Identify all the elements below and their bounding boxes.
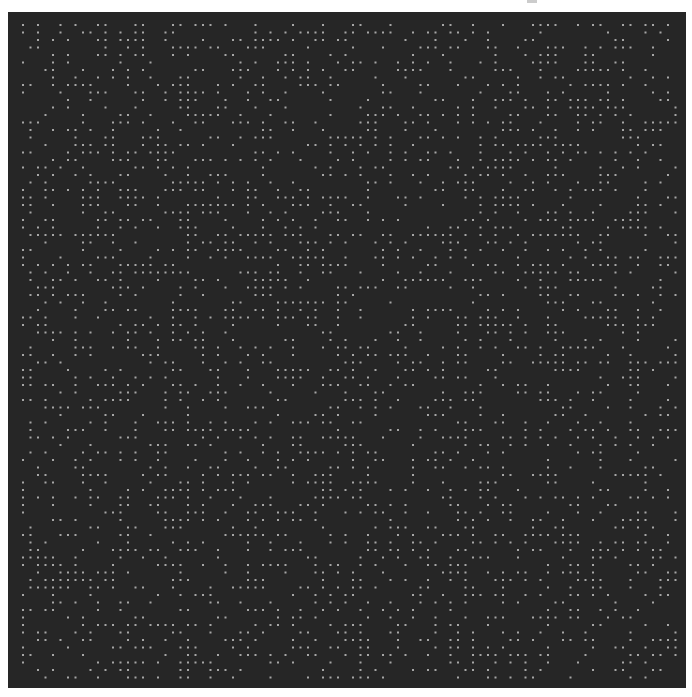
dot — [630, 564, 632, 566]
dot — [517, 572, 519, 574]
dot — [637, 377, 639, 379]
dot — [367, 677, 369, 679]
dot — [60, 579, 62, 581]
dot — [300, 77, 302, 79]
dot — [22, 189, 24, 191]
dot — [90, 242, 92, 244]
dot — [645, 474, 647, 476]
dot — [600, 84, 602, 86]
dot — [435, 39, 437, 41]
dot — [397, 219, 399, 221]
dot — [30, 204, 32, 206]
dot — [82, 152, 84, 154]
dot — [217, 114, 219, 116]
dot — [607, 84, 609, 86]
dot — [510, 339, 512, 341]
dot — [427, 369, 429, 371]
dot — [465, 362, 467, 364]
dot — [577, 542, 579, 544]
dot — [195, 594, 197, 596]
dot — [645, 647, 647, 649]
dot — [622, 24, 624, 26]
dot — [330, 212, 332, 214]
dot — [450, 624, 452, 626]
dot — [180, 309, 182, 311]
dot — [442, 572, 444, 574]
dot — [142, 197, 144, 199]
dot — [405, 384, 407, 386]
dot — [487, 47, 489, 49]
dot — [435, 467, 437, 469]
dot — [397, 257, 399, 259]
dot — [367, 534, 369, 536]
dot — [367, 482, 369, 484]
dot — [532, 527, 534, 529]
dot — [405, 489, 407, 491]
dot — [517, 279, 519, 281]
dot — [382, 32, 384, 34]
dot — [270, 114, 272, 116]
dot — [202, 279, 204, 281]
dot — [247, 647, 249, 649]
dot — [150, 62, 152, 64]
dot — [637, 159, 639, 161]
dot — [22, 662, 24, 664]
dot — [202, 144, 204, 146]
dot — [570, 504, 572, 506]
dot — [645, 234, 647, 236]
dot — [225, 174, 227, 176]
dot — [570, 272, 572, 274]
dot — [135, 107, 137, 109]
dot — [225, 54, 227, 56]
dot — [97, 572, 99, 574]
dot — [360, 122, 362, 124]
dot — [457, 84, 459, 86]
dot — [247, 519, 249, 521]
dot — [345, 32, 347, 34]
dot — [345, 69, 347, 71]
dot — [630, 227, 632, 229]
dot — [600, 489, 602, 491]
dot — [337, 632, 339, 634]
dot — [217, 47, 219, 49]
dot — [67, 677, 69, 679]
dot — [600, 317, 602, 319]
dot — [202, 182, 204, 184]
dot — [232, 182, 234, 184]
dot — [285, 197, 287, 199]
dot — [52, 594, 54, 596]
dot — [120, 504, 122, 506]
dot — [630, 422, 632, 424]
dot — [547, 459, 549, 461]
dot — [637, 137, 639, 139]
dot — [75, 332, 77, 334]
dot — [60, 24, 62, 26]
dot — [60, 279, 62, 281]
dot — [112, 144, 114, 146]
dot — [562, 407, 564, 409]
dot — [577, 69, 579, 71]
dot — [660, 407, 662, 409]
dot — [30, 279, 32, 281]
dot — [90, 144, 92, 146]
dot — [67, 407, 69, 409]
dot — [135, 242, 137, 244]
dot — [600, 557, 602, 559]
dot — [105, 279, 107, 281]
dot — [142, 264, 144, 266]
dot — [337, 234, 339, 236]
dot — [450, 639, 452, 641]
dot — [480, 212, 482, 214]
dot — [547, 662, 549, 664]
dot — [472, 287, 474, 289]
dot — [120, 512, 122, 514]
dot — [277, 152, 279, 154]
dot — [442, 497, 444, 499]
dot — [255, 609, 257, 611]
dot — [187, 489, 189, 491]
dot — [450, 654, 452, 656]
dot — [165, 92, 167, 94]
dot — [172, 579, 174, 581]
dot — [22, 384, 24, 386]
dot — [607, 309, 609, 311]
